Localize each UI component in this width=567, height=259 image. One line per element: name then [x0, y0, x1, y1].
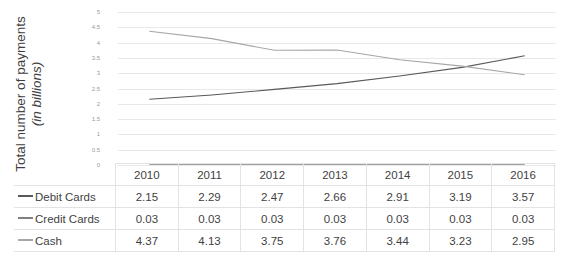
- legend-item[interactable]: Cash: [14, 230, 116, 252]
- data-table: 2010201120122013201420152016 Debit Cards…: [14, 163, 555, 252]
- table-cell: 3.75: [241, 230, 304, 252]
- legend-line-icon: [18, 217, 33, 219]
- legend-item[interactable]: Credit Cards: [14, 208, 116, 230]
- table-cell: 2.15: [116, 186, 179, 208]
- series-lines: [118, 12, 556, 165]
- legend-line-icon: [18, 239, 33, 241]
- table-cell: 0.03: [116, 208, 179, 230]
- table-cell: 0.03: [366, 208, 429, 230]
- y-axis-title-line1: Total number of payments: [13, 0, 29, 189]
- table-corner-cell: [14, 164, 116, 186]
- table-cell: 4.13: [178, 230, 241, 252]
- y-tick-label: 2.5: [92, 86, 100, 92]
- table-cell: 0.03: [178, 208, 241, 230]
- series-line: [149, 56, 524, 99]
- table-cell: 3.76: [304, 230, 367, 252]
- y-tick-label: 3: [97, 70, 100, 76]
- table-col-header: 2010: [116, 164, 179, 186]
- table-cell: 3.44: [366, 230, 429, 252]
- table-col-header: 2012: [241, 164, 304, 186]
- table-cell: 0.03: [429, 208, 492, 230]
- table-cell: 2.47: [241, 186, 304, 208]
- table-col-header: 2013: [304, 164, 367, 186]
- table-cell: 3.57: [492, 186, 555, 208]
- table-cell: 2.66: [304, 186, 367, 208]
- table-cell: 2.29: [178, 186, 241, 208]
- y-tick-label: 5: [97, 9, 100, 15]
- table-col-header: 2014: [366, 164, 429, 186]
- plot-frame: 54.543.532.521.510.50: [118, 12, 556, 165]
- y-tick-label: 0.5: [92, 147, 100, 153]
- chart-title: Netherlands: [115, 0, 555, 2]
- table-body: Debit Cards2.152.292.472.662.913.193.57C…: [14, 186, 555, 252]
- series-line: [149, 31, 524, 74]
- table-row: Credit Cards0.030.030.030.030.030.030.03: [14, 208, 555, 230]
- table-col-header: 2016: [492, 164, 555, 186]
- y-axis-title: Total number of payments (in billions): [13, 0, 45, 189]
- y-tick-label: 1: [97, 131, 100, 137]
- legend-item[interactable]: Debit Cards: [14, 186, 116, 208]
- y-tick-label: 4.5: [92, 24, 100, 30]
- y-tick-label: 3.5: [92, 55, 100, 61]
- table-cell: 4.37: [116, 230, 179, 252]
- legend-line-icon: [18, 195, 33, 197]
- table-cell: 0.03: [492, 208, 555, 230]
- y-tick-label: 1.5: [92, 116, 100, 122]
- table-cell: 3.19: [429, 186, 492, 208]
- table-cell: 0.03: [304, 208, 367, 230]
- y-tick-label: 4: [97, 40, 100, 46]
- chart-figure: Netherlands Total number of payments (in…: [0, 0, 567, 259]
- table-row: Cash4.374.133.753.763.443.232.95: [14, 230, 555, 252]
- table-col-header: 2015: [429, 164, 492, 186]
- table-cell: 3.23: [429, 230, 492, 252]
- table-col-header: 2011: [178, 164, 241, 186]
- y-axis-title-line2: (in billions): [29, 0, 45, 189]
- legend-item-label: Credit Cards: [35, 213, 100, 225]
- table-cell: 2.95: [492, 230, 555, 252]
- table-header-row: 2010201120122013201420152016: [14, 164, 555, 186]
- table-cell: 2.91: [366, 186, 429, 208]
- table-cell: 0.03: [241, 208, 304, 230]
- plot-area: 54.543.532.521.510.50: [104, 10, 556, 165]
- legend-item-label: Debit Cards: [35, 191, 96, 203]
- y-tick-label: 2: [97, 101, 100, 107]
- legend-item-label: Cash: [35, 235, 62, 247]
- table-row: Debit Cards2.152.292.472.662.913.193.57: [14, 186, 555, 208]
